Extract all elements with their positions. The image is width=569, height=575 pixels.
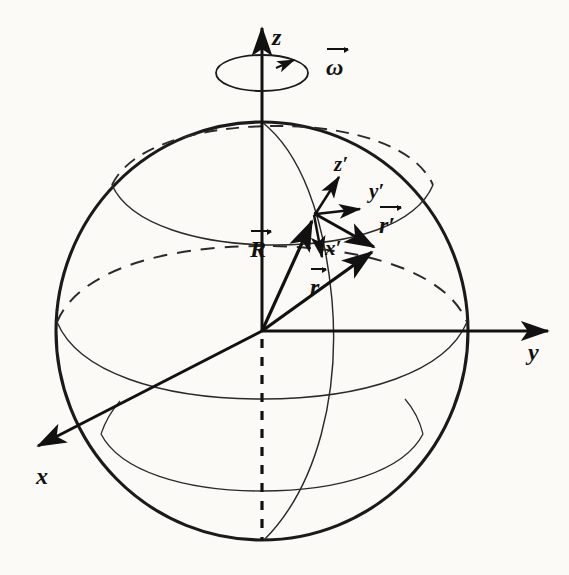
axis-label-x: x xyxy=(36,464,48,488)
r-symbol: r xyxy=(310,275,319,299)
local-axis-label-z-prime: z′ xyxy=(334,154,348,175)
local-axis-label-y-prime: y′ xyxy=(369,181,384,202)
surface-point-marker xyxy=(314,212,319,217)
vector-label-r: r xyxy=(310,266,319,299)
r-prime-symbol: r′ xyxy=(379,213,395,237)
axis-label-z: z xyxy=(272,25,281,49)
upper-latitude-back-arc xyxy=(112,126,433,185)
vector-label-R: R xyxy=(250,228,266,261)
axis-label-y: y xyxy=(528,340,539,364)
figure-canvas: z ω y x z′ y′ x′ R r′ r xyxy=(0,0,569,575)
lower-latitude-front-arc xyxy=(101,434,423,491)
vector-label-r-prime: r′ xyxy=(379,204,395,237)
sphere-diagram xyxy=(0,0,569,575)
local-axis-z-prime xyxy=(316,177,339,213)
omega-label: ω xyxy=(326,46,343,79)
r-vector-glyph: r xyxy=(310,266,319,299)
R-symbol: R xyxy=(250,237,266,261)
x-axis xyxy=(38,331,262,446)
R-vector-glyph: R xyxy=(250,228,266,261)
omega-vector-glyph: ω xyxy=(326,46,343,79)
omega-symbol: ω xyxy=(326,55,343,79)
lower-latitude-right-stub xyxy=(405,399,423,434)
local-axis-label-x-prime: x′ xyxy=(325,238,341,259)
r-prime-vector-glyph: r′ xyxy=(379,204,395,237)
local-axis-y-prime xyxy=(316,209,360,214)
rotation-sense-arrowhead xyxy=(276,60,294,68)
